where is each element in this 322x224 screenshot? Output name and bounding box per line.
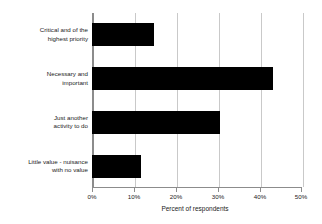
category-label-3: Little value - nuisance with no value bbox=[0, 144, 88, 188]
tick-label-20: 20% bbox=[170, 193, 182, 201]
tick-mark-20 bbox=[176, 188, 177, 192]
bar-row-2 bbox=[93, 101, 302, 145]
bar-critical-and-of-the-highest-priority bbox=[93, 24, 153, 45]
tick-mark-10 bbox=[134, 188, 135, 192]
tick-label-40: 40% bbox=[254, 193, 266, 201]
category-label-2-line-2: activity to do bbox=[54, 122, 88, 131]
tick-mark-30 bbox=[218, 188, 219, 192]
category-label-1-line-1: Necessary and bbox=[47, 70, 88, 79]
category-label-1: Necessary and important bbox=[0, 57, 88, 101]
x-axis-title-container: Percent of respondents bbox=[0, 205, 322, 212]
tick-label-10: 10% bbox=[128, 193, 140, 201]
gridline-50 bbox=[303, 13, 304, 187]
category-label-3-line-2: with no value bbox=[28, 166, 88, 175]
category-label-2-line-1: Just another bbox=[54, 114, 88, 123]
plot-area bbox=[92, 13, 302, 188]
category-label-0: Critical and of the highest priority bbox=[0, 13, 88, 57]
tick-label-0: 0% bbox=[88, 193, 97, 201]
tick-mark-0 bbox=[92, 188, 93, 192]
category-label-0-line-1: Critical and of the bbox=[40, 26, 88, 35]
category-label-2: Just another activity to do bbox=[0, 101, 88, 145]
bar-necessary-and-important bbox=[93, 68, 272, 89]
category-label-0-line-2: highest priority bbox=[40, 35, 88, 44]
bar-row-1 bbox=[93, 57, 302, 101]
bar-little-value-nuisance-with-no-value bbox=[93, 156, 140, 177]
tick-label-30: 30% bbox=[212, 193, 224, 201]
bar-chart: Critical and of the highest priority Nec… bbox=[0, 0, 322, 224]
category-label-1-line-2: important bbox=[47, 79, 88, 88]
tick-label-50: 50% bbox=[295, 193, 307, 201]
tick-mark-50 bbox=[301, 188, 302, 192]
bar-row-0 bbox=[93, 13, 302, 57]
bar-just-another-activity-to-do bbox=[93, 112, 219, 133]
x-axis-title: Percent of respondents bbox=[161, 205, 228, 212]
tick-mark-40 bbox=[260, 188, 261, 192]
bar-row-3 bbox=[93, 144, 302, 188]
category-label-3-line-1: Little value - nuisance bbox=[28, 158, 88, 167]
